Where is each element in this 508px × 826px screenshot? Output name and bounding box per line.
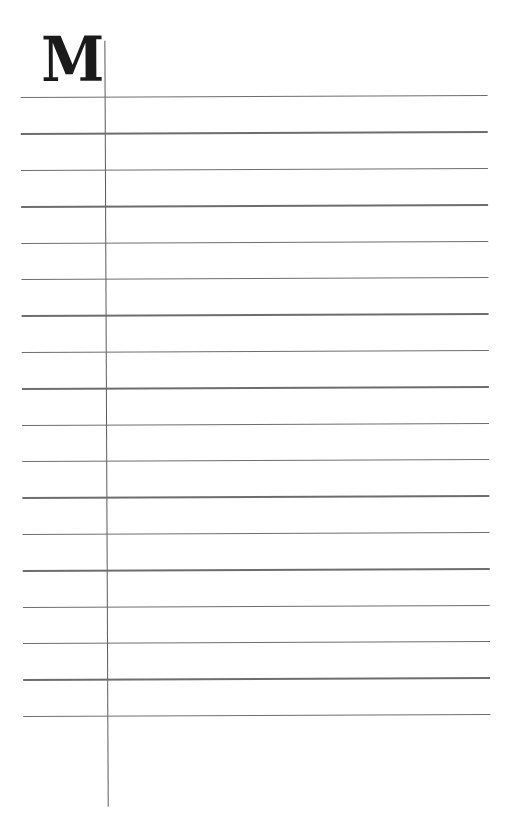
ruled-line — [23, 532, 490, 535]
ruled-line — [22, 386, 489, 389]
ruled-line — [23, 568, 490, 571]
ruled-line — [21, 277, 488, 280]
ruled-line — [22, 423, 489, 426]
ruled-line — [21, 241, 488, 244]
monogram-initial: M — [41, 29, 104, 91]
ruled-line — [22, 495, 489, 498]
ruled-line — [21, 168, 488, 171]
ruled-line — [23, 714, 490, 717]
ruled-line — [22, 459, 489, 462]
ruled-line — [22, 313, 489, 316]
ruled-line — [22, 350, 489, 353]
ruled-line — [23, 677, 490, 680]
ruled-line — [21, 204, 488, 207]
ruled-line — [23, 605, 490, 608]
ruled-line — [23, 641, 490, 644]
ruled-line — [21, 131, 488, 134]
ruled-lines — [0, 0, 506, 1]
lined-notebook-page: M — [0, 0, 508, 826]
